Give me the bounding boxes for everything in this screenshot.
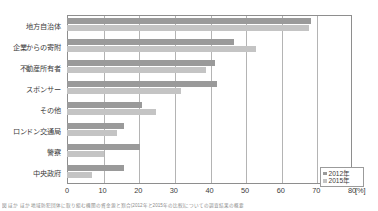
- x-tick-label: 30: [170, 186, 178, 195]
- bar: [67, 25, 309, 31]
- bar: [67, 151, 104, 157]
- bar: [67, 144, 140, 150]
- bar: [67, 172, 92, 178]
- bar: [67, 60, 215, 66]
- bar-group: [67, 100, 352, 121]
- bar-group: [67, 163, 352, 184]
- bar: [67, 39, 234, 45]
- bar: [67, 67, 206, 73]
- x-axis-unit-label: [%]: [355, 186, 366, 195]
- legend-swatch-icon: [323, 172, 327, 176]
- x-tick-label: 50: [241, 186, 249, 195]
- x-tick-label: 60: [277, 186, 285, 195]
- bar-group: [67, 15, 352, 36]
- category-axis-labels: 地方自治体 企業からの寄附 不動産所有者 スポンサー その他 ロンドン交通局 警…: [0, 15, 64, 184]
- x-tick-label: 0: [65, 186, 69, 195]
- legend-label: 2015年: [329, 177, 351, 185]
- legend-swatch-icon: [323, 179, 327, 183]
- bar: [67, 130, 117, 136]
- bar: [67, 165, 124, 171]
- category-label: 警察: [0, 142, 64, 163]
- category-label: スポンサー: [0, 78, 64, 99]
- x-tick-label: 40: [205, 186, 213, 195]
- legend: 2012年 2015年: [320, 167, 364, 187]
- bar-group: [67, 121, 352, 142]
- bar: [67, 123, 124, 129]
- x-axis-tick-labels: 01020304050607080[%]: [0, 186, 378, 198]
- category-label: ロンドン交通局: [0, 121, 64, 142]
- horizontal-bar-chart: 地方自治体 企業からの寄附 不動産所有者 スポンサー その他 ロンドン交通局 警…: [0, 0, 378, 211]
- legend-item-2015: 2015年: [323, 177, 361, 185]
- category-label: 中央政府: [0, 163, 64, 184]
- category-label: 地方自治体: [0, 15, 64, 36]
- legend-label: 2012年: [329, 170, 351, 178]
- legend-item-2012: 2012年: [323, 170, 361, 178]
- bar: [67, 102, 142, 108]
- category-label: 企業からの寄附: [0, 36, 64, 57]
- bar-group: [67, 78, 352, 99]
- figure-caption: 図 ほか ほか 地域防犯団体に取り組む機関の資金源と割合(2012年と2015年…: [2, 203, 378, 209]
- x-tick-label: 20: [134, 186, 142, 195]
- x-tick-label: 70: [312, 186, 320, 195]
- bar: [67, 46, 256, 52]
- bar-group: [67, 36, 352, 57]
- bar: [67, 109, 156, 115]
- bar: [67, 81, 217, 87]
- bar-group: [67, 57, 352, 78]
- category-label: 不動産所有者: [0, 57, 64, 78]
- bar: [67, 18, 311, 24]
- category-label: その他: [0, 100, 64, 121]
- bar: [67, 88, 181, 94]
- bar-series-container: [67, 15, 352, 184]
- bar-group: [67, 142, 352, 163]
- x-tick-label: 10: [99, 186, 107, 195]
